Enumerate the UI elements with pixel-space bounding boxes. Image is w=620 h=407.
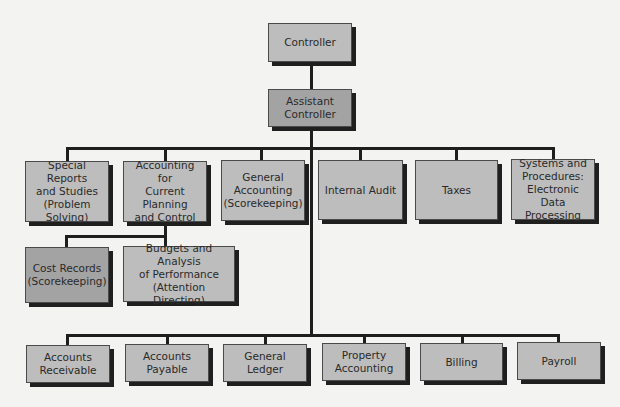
node-accounts-receivable: Accounts Receivable — [26, 345, 110, 383]
node-label: Billing — [445, 356, 477, 369]
node-special-reports: Special Reports and Studies (Problem Sol… — [25, 161, 109, 222]
node-payroll: Payroll — [517, 342, 601, 380]
node-billing: Billing — [420, 343, 503, 381]
node-general-ledger: General Ledger — [223, 344, 307, 382]
node-general-accounting: General Accounting (Scorekeeping) — [221, 160, 305, 221]
node-accounts-payable: Accounts Payable — [125, 344, 209, 382]
operations-bar — [66, 334, 560, 337]
node-label: Taxes — [442, 184, 471, 197]
node-label: Accounts Payable — [143, 350, 191, 376]
node-label: General Ledger — [244, 350, 285, 376]
connector-controller-to-assistant — [310, 62, 313, 90]
node-systems-procedures: Systems and Procedures: Electronic Data … — [511, 159, 595, 220]
node-label: Special Reports and Studies (Problem Sol… — [29, 159, 105, 224]
node-label: Accounts Receivable — [39, 351, 96, 377]
planning-bar — [65, 235, 167, 238]
node-label: Controller — [284, 36, 336, 49]
node-assistant-controller: Assistant Controller — [268, 89, 352, 127]
node-label: Assistant Controller — [284, 95, 336, 121]
node-label: Budgets and Analysis of Performance (Att… — [127, 242, 231, 307]
node-label: Payroll — [542, 355, 577, 368]
node-label: Property Accounting — [335, 349, 394, 375]
node-controller: Controller — [268, 23, 352, 62]
node-internal-audit: Internal Audit — [318, 160, 403, 220]
main-trunk — [310, 127, 313, 337]
node-label: Accounting for Current Planning and Cont… — [127, 159, 203, 224]
node-label: General Accounting (Scorekeeping) — [223, 171, 302, 210]
drop-cost-records — [65, 235, 68, 247]
staff-bar — [66, 147, 555, 150]
node-taxes: Taxes — [415, 160, 498, 220]
node-cost-records: Cost Records (Scorekeeping) — [25, 247, 109, 303]
node-label: Cost Records (Scorekeeping) — [27, 262, 106, 288]
node-accounting-planning-control: Accounting for Current Planning and Cont… — [123, 161, 207, 222]
node-budgets-analysis: Budgets and Analysis of Performance (Att… — [123, 246, 235, 302]
node-property-accounting: Property Accounting — [322, 343, 406, 381]
node-label: Systems and Procedures: Electronic Data … — [515, 157, 591, 222]
node-label: Internal Audit — [325, 184, 396, 197]
